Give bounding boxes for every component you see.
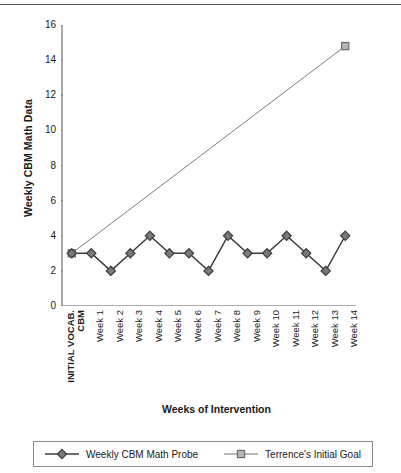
x-tick-label: Week 14 (349, 310, 359, 390)
y-tick-label: 2 (34, 266, 56, 276)
x-tick-label: Week 11 (291, 310, 301, 390)
plot-svg (61, 25, 372, 306)
x-axis-tick-labels: INITIAL VOCAB.CBMWeek 1Week 2Week 3Week … (61, 310, 373, 400)
diamond-marker-icon (45, 447, 79, 461)
y-tick-label: 0 (34, 301, 56, 311)
series-terrences-initial-goal (68, 42, 349, 256)
x-tick-label: Week 12 (310, 310, 320, 390)
legend-item[interactable]: Terrence's Initial Goal (224, 447, 361, 461)
x-tick-label: Week 10 (271, 310, 281, 390)
axis-lines (62, 25, 356, 306)
y-tick-label: 10 (34, 125, 56, 135)
legend-label: Terrence's Initial Goal (265, 449, 361, 460)
x-axis-title: Weeks of Intervention (61, 403, 372, 415)
x-tick-label: Week 4 (154, 310, 164, 390)
x-tick-label: INITIAL VOCAB.CBM (66, 310, 86, 396)
x-tick-label: Week 5 (173, 310, 183, 390)
top-divider (0, 4, 401, 5)
y-tick-label: 12 (34, 90, 56, 100)
x-tick-label: Week 6 (193, 310, 203, 390)
x-tick-label: Week 7 (213, 310, 223, 390)
x-tick-label: Week 13 (330, 310, 340, 390)
y-tick-label: 14 (34, 55, 56, 65)
x-tick-label: Week 2 (115, 310, 125, 390)
x-tick-label: Week 8 (232, 310, 242, 390)
y-tick-label: 8 (34, 161, 56, 171)
x-tick-label: Week 9 (252, 310, 262, 390)
square-marker-icon (224, 447, 258, 461)
chart-legend: Weekly CBM Math ProbeTerrence's Initial … (33, 441, 373, 467)
data-point (341, 231, 350, 240)
chart-container: Weekly CBM Math Data 1614121086420 INITI… (0, 0, 401, 473)
data-point (342, 42, 349, 49)
legend-label: Weekly CBM Math Probe (86, 449, 198, 460)
series-weekly-cbm-math-probe (67, 231, 350, 275)
plot-area (61, 25, 372, 306)
x-tick-label: Week 3 (134, 310, 144, 390)
legend-item[interactable]: Weekly CBM Math Probe (45, 447, 198, 461)
y-axis-tick-labels: 1614121086420 (32, 0, 56, 473)
y-tick-label: 16 (34, 20, 56, 30)
y-tick-label: 4 (34, 231, 56, 241)
x-tick-label: Week 1 (95, 310, 105, 390)
y-tick-label: 6 (34, 196, 56, 206)
